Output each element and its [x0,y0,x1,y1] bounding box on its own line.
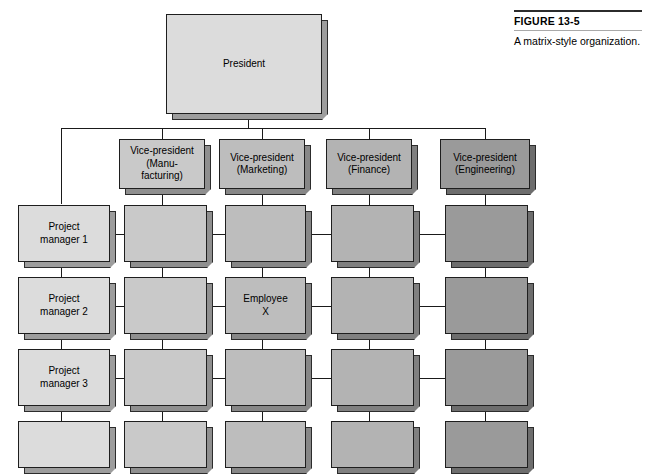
connector-bus-to-project-managers [61,128,62,204]
node-face: EmployeeX [225,277,306,334]
node-face: Projectmanager 2 [18,277,110,334]
grid-cell-r2c4[interactable] [445,277,528,334]
grid-cell-r4c1[interactable] [124,421,207,468]
grid-cell-r1c1[interactable] [124,205,207,262]
figure-number: FIGURE 13-5 [514,12,642,30]
node-president[interactable]: President [166,14,322,114]
grid-cell-r3c4[interactable] [445,349,528,406]
node-face [445,421,528,468]
node-face [124,421,207,468]
grid-cell-r4c3[interactable] [331,421,414,468]
node-face [225,421,306,468]
node-label-project-manager-1: Projectmanager 1 [37,221,91,246]
node-face [124,349,207,406]
node-project-manager-1[interactable]: Projectmanager 1 [18,205,110,262]
node-vice-president-finance[interactable]: Vice-president(Finance) [326,139,412,189]
node-face [331,349,414,406]
node-project-manager-3[interactable]: Projectmanager 3 [18,349,110,406]
node-vice-president-engineering[interactable]: Vice-president(Engineering) [440,139,530,189]
node-label-vp-marketing: Vice-president(Marketing) [227,152,297,177]
node-vice-president-marketing[interactable]: Vice-president(Marketing) [219,139,305,189]
node-face [445,277,528,334]
node-vice-president-manufacturing[interactable]: Vice-president(Manu-facturing) [119,139,205,189]
grid-cell-r3c3[interactable] [331,349,414,406]
figure-canvas: FIGURE 13-5 A matrix-style organization. [0,0,649,475]
node-face [331,205,414,262]
grid-cell-r2c1[interactable] [124,277,207,334]
grid-cell-r2c3[interactable] [331,277,414,334]
node-label-employee-x: EmployeeX [240,293,290,318]
node-face [445,205,528,262]
node-face: Vice-president(Finance) [326,139,412,189]
node-face: Projectmanager 1 [18,205,110,262]
grid-cell-r1c2[interactable] [225,205,306,262]
node-face [331,421,414,468]
grid-cell-r1c3[interactable] [331,205,414,262]
node-face: Vice-president(Marketing) [219,139,305,189]
node-label-project-manager-3: Projectmanager 3 [37,365,91,390]
grid-cell-r4c4[interactable] [445,421,528,468]
connector-bus-to-vp-2 [262,128,263,139]
connector-bus-horizontal [61,128,485,129]
connector-bus-to-vp-1 [162,128,163,139]
node-face: Projectmanager 3 [18,349,110,406]
figure-caption-block: FIGURE 13-5 A matrix-style organization. [514,10,642,48]
grid-cell-r4c2[interactable] [225,421,306,468]
node-label-project-manager-2: Projectmanager 2 [37,293,91,318]
node-face [445,349,528,406]
node-label-vp-engineering: Vice-president(Engineering) [450,152,520,177]
node-face [124,277,207,334]
grid-cell-r1c4[interactable] [445,205,528,262]
grid-cell-r3c1[interactable] [124,349,207,406]
node-face [225,349,306,406]
node-project-manager-2[interactable]: Projectmanager 2 [18,277,110,334]
node-face: Vice-president(Engineering) [440,139,530,189]
figure-caption-text: A matrix-style organization. [514,31,642,48]
node-label-president: President [220,58,268,71]
grid-cell-r2c2-employee-x[interactable]: EmployeeX [225,277,306,334]
node-face: Vice-president(Manu-facturing) [119,139,205,189]
node-face [225,205,306,262]
node-face: President [166,14,322,114]
connector-bus-to-vp-4 [485,128,486,139]
node-face [124,205,207,262]
node-face [331,277,414,334]
node-label-vp-manufacturing: Vice-president(Manu-facturing) [127,145,197,183]
node-face [18,421,110,468]
connector-bus-to-vp-3 [369,128,370,139]
node-project-manager-4-empty[interactable] [18,421,110,468]
grid-cell-r3c2[interactable] [225,349,306,406]
node-label-vp-finance: Vice-president(Finance) [334,152,404,177]
